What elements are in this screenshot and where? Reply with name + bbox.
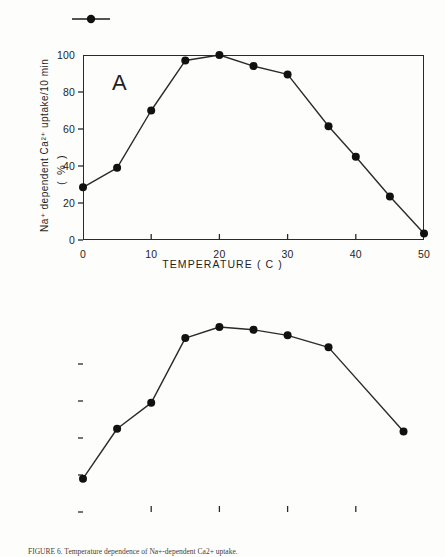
chart-panel-b: B Na⁺ dependent Ca²⁺ uptake/10 min ( % )… [0, 276, 445, 557]
x-tick-label: 30 [282, 248, 294, 260]
x-tick-label: 10 [145, 248, 157, 260]
plot-area-b [0, 276, 445, 557]
y-tick-label: 0 [43, 234, 75, 246]
y-tick-label: 80 [43, 86, 75, 98]
figure-sheet: A Na⁺ dependent Ca²⁺ uptake/10 min ( % )… [0, 0, 445, 557]
x-tick-label: 20 [213, 248, 225, 260]
y-tick-label: 60 [43, 123, 75, 135]
y-tick-label: 100 [43, 49, 75, 61]
x-tick-label: 0 [80, 248, 86, 260]
y-tick-label: 20 [43, 197, 75, 209]
x-tick-label: 50 [418, 248, 430, 260]
y-tick-label: 40 [43, 160, 75, 172]
figure-caption-text: FIGURE 6. Temperature dependence of Na+-… [28, 547, 238, 556]
figure-caption: FIGURE 6. Temperature dependence of Na+-… [28, 547, 438, 557]
chart-panel-a: A Na⁺ dependent Ca²⁺ uptake/10 min ( % )… [0, 0, 445, 278]
x-tick-label: 40 [350, 248, 362, 260]
